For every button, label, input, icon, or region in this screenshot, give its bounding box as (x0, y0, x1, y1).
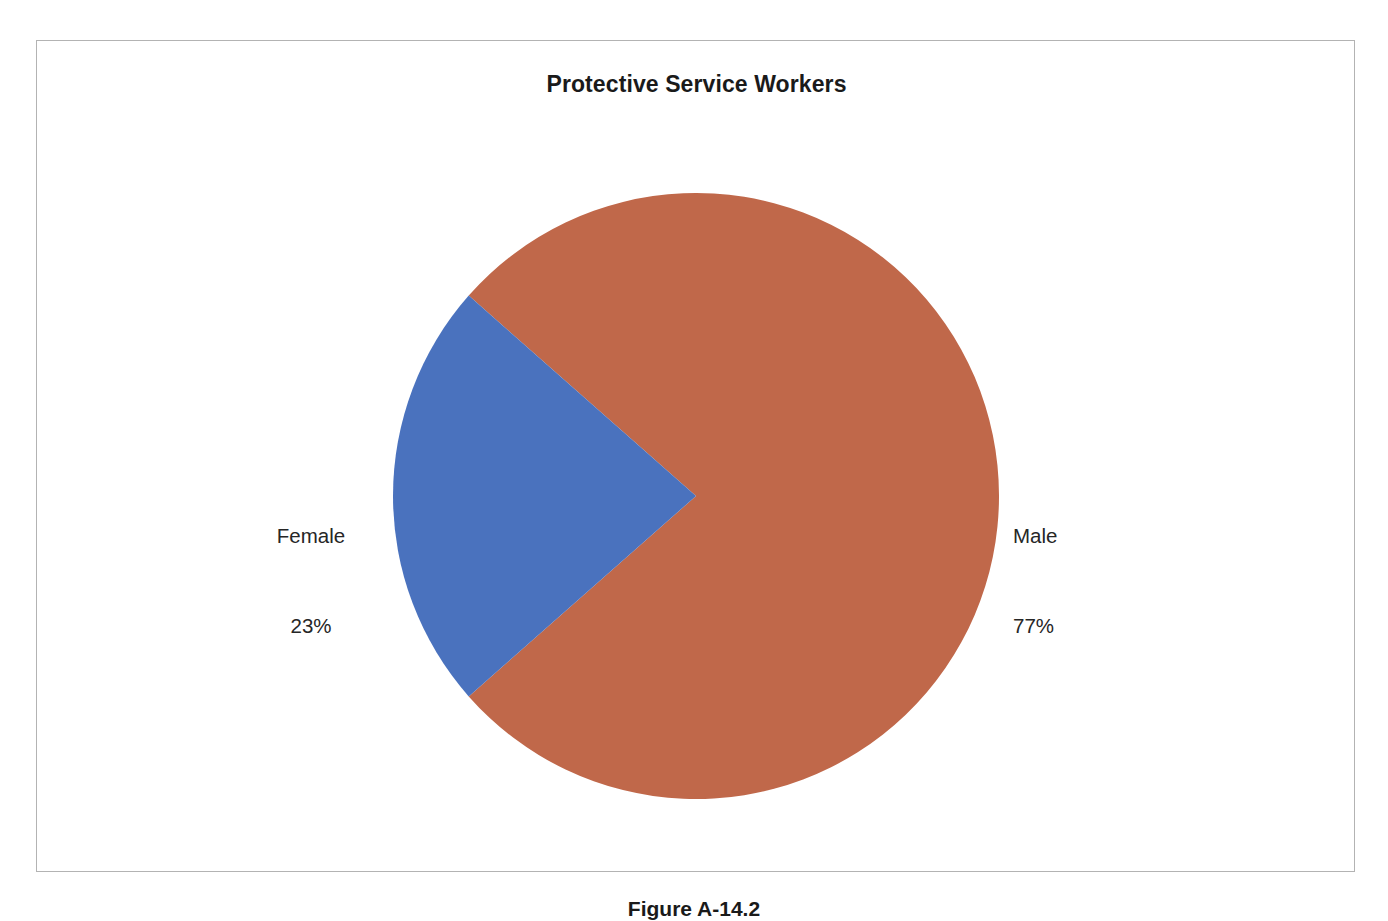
pie-label-male-name: Male (1013, 521, 1057, 551)
chart-frame: Protective Service Workers Female 23% Ma… (36, 40, 1355, 872)
pie-label-male: Male 77% (1013, 461, 1057, 701)
pie-label-female: Female 23% (241, 461, 381, 701)
pie-chart (393, 193, 999, 799)
pie-chart-svg (393, 193, 999, 799)
pie-label-male-value: 77% (1013, 611, 1057, 641)
figure-caption: Figure A-14.2 (0, 897, 1388, 921)
chart-title: Protective Service Workers (37, 71, 1356, 98)
pie-label-female-name: Female (241, 521, 381, 551)
pie-label-female-value: 23% (241, 611, 381, 641)
